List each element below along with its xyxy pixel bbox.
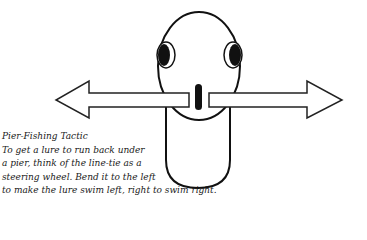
caption-line: a pier, think of the line-tie as a xyxy=(2,157,217,171)
lure-eye-right-icon xyxy=(224,42,242,68)
caption-title: Pier-Fishing Tactic xyxy=(2,130,217,144)
caption-line: To get a lure to run back under xyxy=(2,144,217,158)
lure-eye-left-icon xyxy=(157,42,175,68)
caption: Pier-Fishing Tactic To get a lure to run… xyxy=(2,130,217,198)
caption-line: steering wheel. Bend it to the left xyxy=(2,171,217,185)
line-tie-icon xyxy=(195,84,202,110)
caption-line: to make the lure swim left, right to swi… xyxy=(2,184,217,198)
